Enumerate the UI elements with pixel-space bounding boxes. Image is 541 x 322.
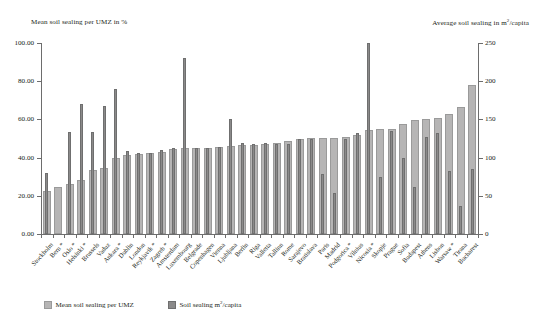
left-tick-label: 60.00 [0, 115, 34, 123]
bar-soil-sealing-per-capita [206, 148, 209, 234]
x-tick-mark [271, 235, 272, 238]
x-tick-mark [398, 235, 399, 238]
x-tick-mark [145, 235, 146, 238]
left-tick-label: 0.00 [0, 230, 34, 238]
x-tick-mark [283, 235, 284, 238]
legend-item[interactable]: Mean soil sealing per UMZ [44, 301, 134, 309]
bar-soil-sealing-per-capita [172, 148, 175, 234]
bar-soil-sealing-per-capita [126, 151, 129, 234]
right-tick-label: 200 [485, 77, 496, 85]
bar-soil-sealing-per-capita [229, 119, 232, 234]
left-tick-label: 100.00 [0, 39, 34, 47]
x-tick-mark [363, 235, 364, 238]
x-tick-mark [455, 235, 456, 238]
right-axis-title-pre: Average soil sealing in m [432, 19, 506, 27]
bar-soil-sealing-per-capita [183, 58, 186, 234]
bar-soil-sealing-per-capita [321, 174, 324, 234]
right-tick-label: 100 [485, 154, 496, 162]
legend-swatch-icon [168, 301, 176, 309]
bar-soil-sealing-per-capita [402, 158, 405, 234]
bar-soil-sealing-per-capita [425, 137, 428, 234]
bar-soil-sealing-per-capita [459, 206, 462, 234]
bar-soil-sealing-per-capita [367, 43, 370, 234]
x-tick-mark [53, 235, 54, 238]
x-tick-mark [421, 235, 422, 238]
bar-soil-sealing-per-capita [356, 133, 359, 234]
left-axis-title: Mean soil sealing per UMZ in % [31, 18, 127, 26]
left-tick-label: 40.00 [0, 154, 34, 162]
right-tick-label: 250 [485, 39, 496, 47]
bar-soil-sealing-per-capita [252, 144, 255, 234]
right-axis-title: Average soil sealing in m2/capita [432, 18, 529, 27]
right-tick-mark [479, 234, 483, 235]
x-tick-mark [133, 235, 134, 238]
legend-swatch-icon [44, 301, 52, 309]
left-tick-label: 20.00 [0, 192, 34, 200]
legend-label: Mean soil sealing per UMZ [56, 301, 134, 309]
chart-root: Mean soil sealing per UMZ in % Average s… [0, 0, 541, 322]
x-tick-mark [340, 235, 341, 238]
right-tick-label: 0 [485, 230, 489, 238]
x-tick-mark [352, 235, 353, 238]
bar-soil-sealing-per-capita [298, 139, 301, 234]
legend-item[interactable]: Soil sealing m2/capita [168, 300, 242, 309]
bar-soil-sealing-per-capita [114, 89, 117, 234]
x-tick-mark [317, 235, 318, 238]
x-tick-mark [409, 235, 410, 238]
bar-soil-sealing-per-capita [149, 153, 152, 234]
bar-soil-sealing-per-capita [413, 187, 416, 234]
right-tick-mark [479, 196, 483, 197]
x-tick-mark [467, 235, 468, 238]
right-axis-title-post: /capita [509, 19, 529, 27]
bar-soil-sealing-per-capita [241, 143, 244, 234]
legend-label: Soil sealing m2/capita [179, 300, 241, 309]
x-tick-mark [76, 235, 77, 238]
right-tick-mark [479, 158, 483, 159]
bar-soil-sealing-per-capita [448, 171, 451, 234]
right-tick-mark [479, 81, 483, 82]
bar-soil-sealing-per-capita [160, 150, 163, 234]
x-tick-mark [191, 235, 192, 238]
plot-area [41, 43, 478, 234]
x-tick-mark [202, 235, 203, 238]
bar-soil-sealing-per-capita [471, 169, 474, 234]
bar-soil-sealing-per-capita [379, 177, 382, 234]
x-tick-mark [248, 235, 249, 238]
x-tick-mark [225, 235, 226, 238]
x-tick-mark [478, 235, 479, 238]
x-tick-mark [260, 235, 261, 238]
bar-mean-soil-sealing [54, 187, 62, 234]
x-tick-mark [99, 235, 100, 238]
right-tick-mark [479, 119, 483, 120]
right-tick-label: 50 [485, 192, 492, 200]
x-tick-mark [214, 235, 215, 238]
x-tick-mark [375, 235, 376, 238]
x-tick-mark [168, 235, 169, 238]
x-tick-mark [444, 235, 445, 238]
x-tick-mark [329, 235, 330, 238]
bar-soil-sealing-per-capita [68, 132, 71, 234]
x-tick-mark [87, 235, 88, 238]
bar-soil-sealing-per-capita [264, 143, 267, 234]
x-tick-mark [122, 235, 123, 238]
bar-soil-sealing-per-capita [103, 106, 106, 234]
bar-soil-sealing-per-capita [218, 147, 221, 234]
bar-soil-sealing-per-capita [344, 139, 347, 235]
bar-soil-sealing-per-capita [195, 148, 198, 234]
x-tick-mark [294, 235, 295, 238]
right-tick-label: 150 [485, 115, 496, 123]
bar-soil-sealing-per-capita [390, 131, 393, 234]
x-tick-mark [386, 235, 387, 238]
left-tick-label: 80.00 [0, 77, 34, 85]
x-tick-mark [156, 235, 157, 238]
bar-soil-sealing-per-capita [45, 173, 48, 234]
x-tick-mark [179, 235, 180, 238]
x-tick-mark [110, 235, 111, 238]
bar-soil-sealing-per-capita [310, 139, 313, 234]
bar-soil-sealing-per-capita [137, 153, 140, 234]
bar-soil-sealing-per-capita [91, 132, 94, 234]
bar-soil-sealing-per-capita [80, 104, 83, 234]
x-tick-mark [306, 235, 307, 238]
x-tick-mark [41, 235, 42, 238]
bar-soil-sealing-per-capita [275, 144, 278, 234]
